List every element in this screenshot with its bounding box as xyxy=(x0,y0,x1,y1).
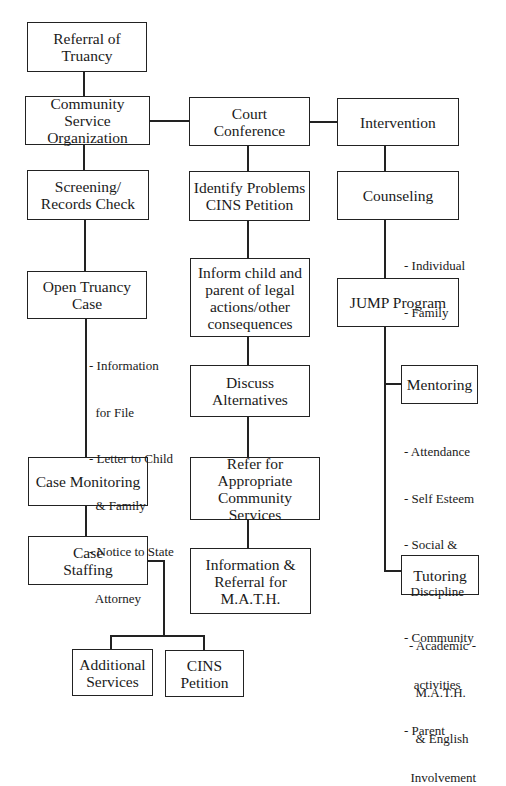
note-item: - Social & xyxy=(404,537,476,553)
note-item: M.A.T.H. xyxy=(409,685,476,701)
note-tutoring: - Academic - M.A.T.H. & English xyxy=(409,607,476,762)
connector xyxy=(83,71,85,96)
connector xyxy=(247,146,249,172)
connector xyxy=(247,336,249,366)
box-refer-community-services: Refer for Appropriate Community Services xyxy=(190,457,320,520)
box-mentoring: Mentoring xyxy=(401,365,478,404)
box-inform-child-and-parent: Inform child and parent of legal actions… xyxy=(190,258,310,337)
note-counseling: - Individual - Family xyxy=(404,227,465,336)
note-item: - Notice to State xyxy=(89,544,174,560)
connector xyxy=(110,635,205,637)
note-item: - Individual xyxy=(404,258,465,274)
connector xyxy=(247,220,249,259)
note-item: & Family xyxy=(89,498,174,514)
note-item: - Academic - xyxy=(409,638,476,654)
note-item: - Attendance xyxy=(404,444,476,460)
box-additional-services: Additional Services xyxy=(72,649,153,696)
box-counseling: Counseling xyxy=(337,171,459,220)
box-referral-of-truancy: Referral of Truancy xyxy=(27,22,147,72)
note-open-truancy-case: - Information for File - Letter to Child… xyxy=(89,327,174,622)
connector xyxy=(84,220,86,272)
connector xyxy=(384,220,386,279)
connector xyxy=(203,635,205,650)
note-item: - Letter to Child xyxy=(89,451,174,467)
box-screening-records-check: Screening/ Records Check xyxy=(27,170,149,220)
connector xyxy=(247,519,249,549)
box-community-service-organization: Community Service Organization xyxy=(25,96,150,145)
note-item: - Self Esteem xyxy=(404,491,476,507)
connector xyxy=(384,146,386,172)
box-open-truancy-case: Open Truancy Case xyxy=(27,271,147,319)
connector xyxy=(149,120,191,122)
note-item: Discipline xyxy=(404,584,476,600)
connector xyxy=(110,635,112,650)
note-item: Attorney xyxy=(89,591,174,607)
connector xyxy=(247,416,249,458)
note-item: & English xyxy=(409,731,476,747)
box-cins-petition: CINS Petition xyxy=(165,650,244,697)
box-discuss-alternatives: Discuss Alternatives xyxy=(190,365,310,417)
note-item: - Family xyxy=(404,305,465,321)
connector xyxy=(384,326,386,572)
note-item: - Information xyxy=(89,358,174,374)
box-court-conference: Court Conference xyxy=(189,97,310,146)
box-information-referral-math: Information & Referral for M.A.T.H. xyxy=(190,548,311,614)
box-identify-problems: Identify Problems CINS Petition xyxy=(189,171,310,221)
connector xyxy=(85,505,87,536)
note-item: for File xyxy=(89,405,174,421)
connector xyxy=(83,145,85,171)
note-item: Involvement xyxy=(404,770,476,786)
connector xyxy=(309,121,338,123)
box-intervention: Intervention xyxy=(337,98,459,146)
